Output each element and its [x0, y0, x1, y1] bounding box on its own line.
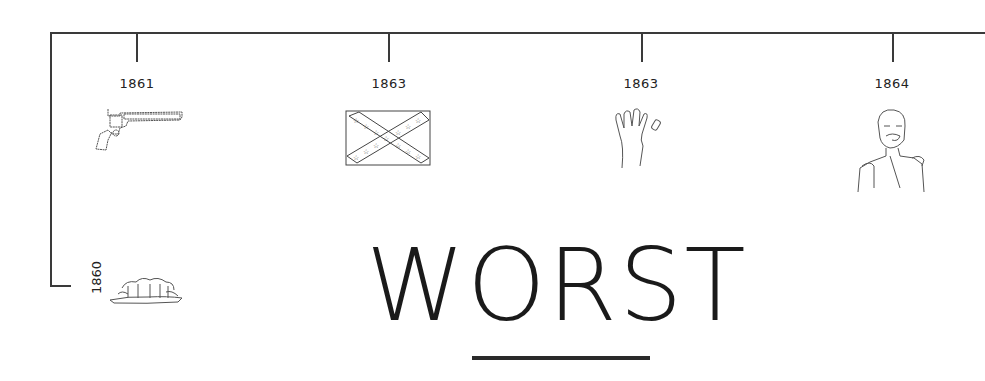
event-year-label: 1863: [371, 76, 406, 91]
event-year-label: 1861: [119, 76, 154, 91]
svg-text:☆: ☆: [415, 117, 421, 125]
timeline-tick: [388, 33, 390, 62]
general-portrait-icon: [850, 104, 930, 196]
event-year-label: 1863: [623, 76, 658, 91]
svg-text:☆: ☆: [363, 148, 369, 156]
svg-text:☆: ☆: [353, 117, 359, 125]
svg-text:☆: ☆: [373, 142, 379, 150]
svg-text:☆: ☆: [383, 135, 389, 143]
svg-text:☆: ☆: [415, 153, 421, 161]
timeline-tick: [892, 33, 894, 62]
timeline-tick: [136, 33, 138, 62]
start-year-label: 1860: [89, 261, 104, 294]
svg-text:☆: ☆: [405, 148, 411, 156]
hand-missing-finger-icon: [612, 106, 672, 176]
svg-text:☆: ☆: [405, 123, 411, 131]
trees-island-icon: [108, 272, 184, 304]
heading-underline: [472, 356, 650, 360]
timeline-start-stub: [50, 285, 71, 287]
timeline-start-vertical: [50, 32, 52, 287]
confederate-flag-icon: ☆☆☆ ☆☆☆☆ ☆☆☆ ☆☆☆: [345, 110, 431, 166]
timeline-tick: [641, 33, 643, 62]
svg-text:☆: ☆: [373, 129, 379, 137]
svg-text:☆: ☆: [395, 129, 401, 137]
svg-text:☆: ☆: [353, 154, 359, 162]
heading-title: WORST: [366, 236, 748, 336]
event-year-label: 1864: [874, 76, 909, 91]
svg-text:☆: ☆: [395, 142, 401, 150]
svg-text:☆: ☆: [363, 123, 369, 131]
timeline-axis: [50, 32, 985, 34]
revolver-icon: [90, 104, 186, 154]
